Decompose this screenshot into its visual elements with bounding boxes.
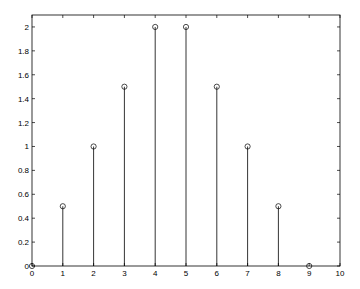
y-tick-label: 0 — [25, 262, 30, 271]
stem-chart: 012345678910 00.20.40.60.811.21.41.61.82 — [0, 0, 360, 289]
x-tick-label: 4 — [153, 269, 158, 278]
y-tick-label: 1.6 — [18, 71, 30, 80]
x-tick-label: 6 — [215, 269, 220, 278]
x-tick-label: 7 — [245, 269, 250, 278]
x-tick-label: 2 — [91, 269, 96, 278]
y-tick-label: 2 — [25, 23, 30, 32]
x-tick-label: 3 — [122, 269, 127, 278]
y-tick-label: 0.2 — [18, 238, 30, 247]
x-tick-label: 1 — [61, 269, 66, 278]
x-tick-label: 0 — [30, 269, 35, 278]
y-tick-label: 1 — [25, 142, 30, 151]
y-tick-label: 0.6 — [18, 190, 30, 199]
y-tick-label: 0.8 — [18, 166, 30, 175]
y-tick-label: 1.2 — [18, 119, 30, 128]
x-tick-label: 10 — [336, 269, 345, 278]
x-tick-label: 5 — [184, 269, 189, 278]
y-tick-label: 0.4 — [18, 214, 30, 223]
y-tick-label: 1.8 — [18, 47, 30, 56]
x-tick-label: 9 — [307, 269, 312, 278]
x-tick-label: 8 — [276, 269, 281, 278]
y-tick-label: 1.4 — [18, 95, 30, 104]
